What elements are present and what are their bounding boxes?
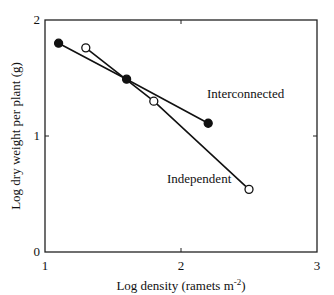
data-point [82,44,90,52]
series-line [59,43,209,123]
x-tick-label: 1 [42,258,49,273]
data-point [55,39,63,47]
x-axis-label: Log density (ramets m-2) [116,277,245,293]
data-point [123,75,131,83]
y-axis-label: Log dry weight per plant (g) [8,62,23,210]
y-tick-label: 0 [34,244,41,259]
series-label-interconnected: Interconnected [207,86,285,101]
data-point [150,97,158,105]
y-tick-label: 2 [34,12,41,27]
x-tick-label: 3 [314,258,321,273]
series-label-independent: Independent [167,171,232,186]
data-point [245,185,253,193]
y-tick-label: 1 [34,128,41,143]
series-line [86,48,249,190]
x-tick-label: 2 [178,258,185,273]
chart: 1 2 3 0 1 2 Log density (ramets m-2) Log… [0,0,334,295]
data-point [204,119,212,127]
plot-frame [45,20,317,252]
